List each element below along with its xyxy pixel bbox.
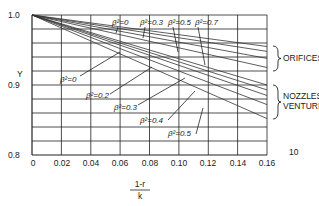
- grid: [32, 15, 267, 155]
- x-tick-0-08: 0.08: [142, 158, 159, 168]
- x-tick-0-04: 0.04: [83, 158, 100, 168]
- x-tick-0-10: 0.10: [171, 158, 188, 168]
- orifices-label: ORIFICES: [283, 53, 319, 63]
- x-label-numerator: 1-r: [135, 179, 146, 189]
- venturis-label: VENTURIS: [283, 101, 319, 111]
- y-axis-label: Y: [17, 69, 23, 79]
- figure-number: 10: [289, 147, 299, 157]
- x-label-denominator: k: [138, 191, 143, 201]
- nozzles-label: NOZZLES: [283, 91, 319, 101]
- x-tick-0-14: 0.14: [230, 158, 247, 168]
- x-tick-0-12: 0.12: [200, 158, 217, 168]
- annotation-orifice-b07: β²=0.7: [194, 18, 219, 27]
- annotation-orifice-b05: β²=0.5: [167, 18, 192, 27]
- y-tick-0-9: 0.9: [8, 80, 20, 90]
- nozzles-brace: [273, 85, 281, 119]
- x-axis-label: 1-r k: [130, 179, 150, 201]
- chart-canvas: β²=0 β²=0.3 β²=0.5 β²=0.7 β²=0 β²=0.2 β²…: [0, 0, 319, 206]
- x-tick-0-06: 0.06: [112, 158, 129, 168]
- annotation-nozzle-b02: β²=0.2: [85, 91, 110, 100]
- y-tick-1-0: 1.0: [8, 10, 20, 20]
- annotation-orifice-b0: β²=0: [111, 18, 129, 27]
- annotation-nozzle-b05: β²=0.5: [167, 129, 192, 138]
- annotation-nozzle-b04: β²=0.4: [139, 116, 164, 125]
- x-ticks: 0 0.02 0.04 0.06 0.08 0.10 0.12 0.14 0.1…: [31, 158, 276, 168]
- x-tick-0-02: 0.02: [54, 158, 71, 168]
- y-tick-0-8: 0.8: [8, 150, 20, 160]
- x-tick-0: 0: [31, 158, 36, 168]
- annotation-nozzle-b0: β²=0: [59, 75, 77, 84]
- annotation-orifice-b03: β²=0.3: [139, 18, 164, 27]
- top-annotations: β²=0 β²=0.3 β²=0.5 β²=0.7: [111, 18, 219, 27]
- annotation-nozzle-b03: β²=0.3: [113, 103, 138, 112]
- x-tick-0-16: 0.16: [259, 158, 276, 168]
- orifices-brace: [273, 46, 281, 71]
